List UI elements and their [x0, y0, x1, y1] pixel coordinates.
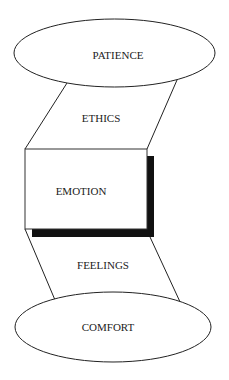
lower-connector-left-edge [25, 229, 55, 300]
lower-connector-right-edge [150, 237, 181, 304]
upper-connector-left-edge [25, 83, 67, 149]
upper-connector-right-edge [147, 80, 177, 149]
top-ellipse-label: PATIENCE [93, 49, 144, 61]
lower-connector-label: FEELINGS [77, 259, 129, 271]
center-box-label: EMOTION [56, 185, 107, 197]
bottom-ellipse-label: COMFORT [82, 321, 135, 333]
upper-connector-label: ETHICS [82, 112, 121, 124]
